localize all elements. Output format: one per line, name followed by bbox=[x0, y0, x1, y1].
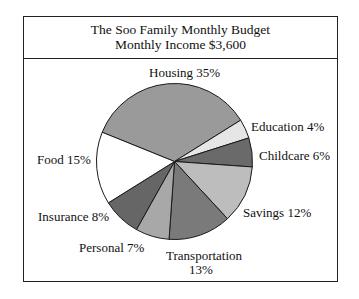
label-food: Food 15% bbox=[37, 153, 91, 167]
label-transportation-name: Transportation bbox=[166, 249, 236, 263]
label-personal: Personal 7% bbox=[79, 241, 144, 255]
label-savings: Savings 12% bbox=[243, 206, 311, 220]
label-childcare: Childcare 6% bbox=[259, 149, 330, 163]
label-insurance: Insurance 8% bbox=[38, 210, 109, 224]
label-transportation-value: 13% bbox=[166, 263, 236, 277]
label-transportation: Transportation 13% bbox=[166, 249, 236, 277]
label-education: Education 4% bbox=[251, 120, 324, 134]
label-housing: Housing 35% bbox=[149, 66, 220, 80]
